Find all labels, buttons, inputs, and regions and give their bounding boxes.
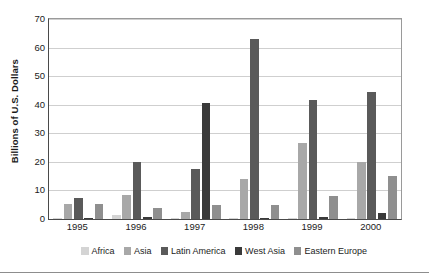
legend-swatch-icon [235, 247, 243, 255]
bar [64, 204, 73, 219]
bar [309, 100, 318, 219]
bar-group [166, 19, 225, 219]
x-axis-tick-labels: 199519961997199819992000 [48, 221, 400, 239]
bar [319, 217, 328, 219]
bar-group [342, 19, 401, 219]
legend-label: Eastern Europe [304, 246, 367, 256]
y-axis-title: Billions of U.S. Dollars [2, 0, 26, 222]
legend-label: West Asia [245, 246, 285, 256]
chart-legend: AfricaAsiaLatin AmericaWest AsiaEastern … [48, 243, 400, 259]
bar-group [225, 19, 284, 219]
bar [288, 218, 297, 219]
bar-group [108, 19, 167, 219]
bar-group [49, 19, 108, 219]
y-axis-tick-labels: 010203040506070 [26, 18, 48, 218]
bar [357, 162, 366, 219]
x-axis-tick-label: 1996 [107, 221, 166, 239]
legend-swatch-icon [124, 247, 132, 255]
legend-label: Asia [134, 246, 152, 256]
x-axis-tick-label: 1999 [283, 221, 342, 239]
plot-area [48, 18, 402, 220]
bar [240, 179, 249, 219]
legend-swatch-icon [294, 247, 302, 255]
bar [181, 212, 190, 219]
bar [329, 196, 338, 219]
bar [250, 39, 259, 219]
bar [260, 218, 269, 219]
bar [84, 218, 93, 219]
x-axis-tick-label: 1997 [165, 221, 224, 239]
bar [191, 169, 200, 219]
legend-item[interactable]: Latin America [161, 246, 226, 256]
bar-groups [49, 19, 401, 219]
bar [229, 218, 238, 219]
bar [133, 162, 142, 219]
y-axis-tick-label: 40 [34, 98, 45, 109]
bar [143, 217, 152, 219]
x-axis-tick-label: 1995 [48, 221, 107, 239]
y-axis-tick-label: 20 [34, 155, 45, 166]
y-axis-tick-label: 50 [34, 70, 45, 81]
bar [171, 218, 180, 219]
bar [298, 143, 307, 219]
legend-item[interactable]: Eastern Europe [294, 246, 367, 256]
bar [367, 92, 376, 219]
bar [202, 103, 211, 219]
bar [212, 205, 221, 219]
y-axis-tick-label: 0 [40, 213, 45, 224]
bar [153, 208, 162, 219]
legend-swatch-icon [161, 247, 169, 255]
y-axis-tick-label: 30 [34, 127, 45, 138]
bar [122, 195, 131, 219]
bar [388, 176, 397, 219]
legend-item[interactable]: West Asia [235, 246, 285, 256]
bar [347, 218, 356, 219]
bar [74, 198, 83, 219]
y-axis-tick-label: 10 [34, 184, 45, 195]
y-axis-title-text: Billions of U.S. Dollars [9, 59, 20, 163]
x-axis-tick-label: 2000 [341, 221, 400, 239]
footer-divider [0, 272, 429, 273]
bar [53, 218, 62, 219]
y-axis-tick-label: 60 [34, 41, 45, 52]
x-axis-tick-label: 1998 [224, 221, 283, 239]
legend-label: Africa [92, 246, 115, 256]
bar [95, 204, 104, 219]
bar [378, 213, 387, 219]
bar [271, 205, 280, 219]
legend-item[interactable]: Africa [81, 246, 115, 256]
legend-label: Latin America [171, 246, 226, 256]
legend-swatch-icon [81, 247, 89, 255]
y-axis-tick-label: 70 [34, 13, 45, 24]
bar-group [284, 19, 343, 219]
legend-item[interactable]: Asia [124, 246, 152, 256]
bar-chart-figure: Billions of U.S. Dollars 010203040506070… [0, 0, 429, 275]
bar [112, 215, 121, 219]
